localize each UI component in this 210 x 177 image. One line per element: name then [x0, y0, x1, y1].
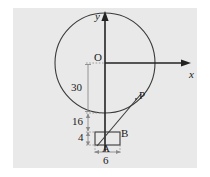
x-axis-arrowhead [181, 59, 191, 66]
point-label-a: A [102, 143, 110, 154]
origin-label: O [94, 52, 102, 63]
point-label-p: P [139, 90, 145, 101]
dimension-label-30: 30 [71, 82, 82, 93]
y-axis-label: y [95, 11, 100, 22]
point-marker-p [135, 98, 137, 100]
dimension-label-16: 16 [72, 116, 83, 127]
dimension-arrow-16-bottom [86, 127, 90, 132]
x-axis-label: x [189, 69, 194, 80]
dimension-label-6: 6 [103, 155, 109, 166]
diagram-root: y x O P B A 30 16 4 6 [0, 0, 210, 177]
y-axis-arrowhead [101, 11, 108, 21]
dimension-arrow-16-top [86, 114, 90, 119]
dimension-label-4: 4 [78, 132, 84, 143]
point-label-b: B [121, 128, 128, 139]
tangent-line-b-to-p [97, 94, 141, 146]
dimension-arrow-4-top [86, 132, 90, 136]
